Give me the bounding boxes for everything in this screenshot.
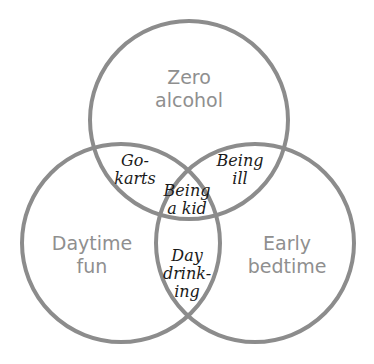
intersection-label-being-a-kid: Being a kid <box>152 182 222 218</box>
set-label-early-bedtime: Early bedtime <box>237 232 337 278</box>
set-label-daytime-fun: Daytime fun <box>42 232 142 278</box>
venn-diagram: Zero alcohol Daytime fun Early bedtime G… <box>0 0 374 364</box>
intersection-label-day-drinking: Day drink- ing <box>152 247 222 301</box>
set-label-zero-alcohol: Zero alcohol <box>139 66 239 112</box>
